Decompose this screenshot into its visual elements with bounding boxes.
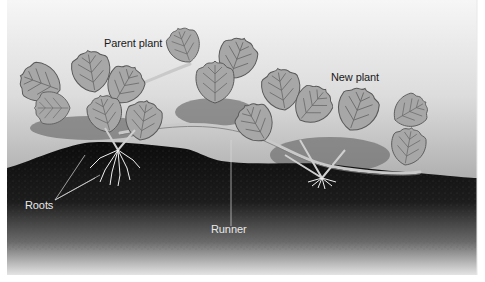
runner-propagation-diagram: Parent plant New plant Roots Runner bbox=[0, 0, 485, 282]
label-parent-plant: Parent plant bbox=[104, 37, 162, 49]
label-runner: Runner bbox=[211, 223, 246, 235]
label-new-plant: New plant bbox=[331, 71, 379, 83]
label-roots: Roots bbox=[25, 199, 53, 211]
diagram-illustration bbox=[0, 0, 485, 282]
